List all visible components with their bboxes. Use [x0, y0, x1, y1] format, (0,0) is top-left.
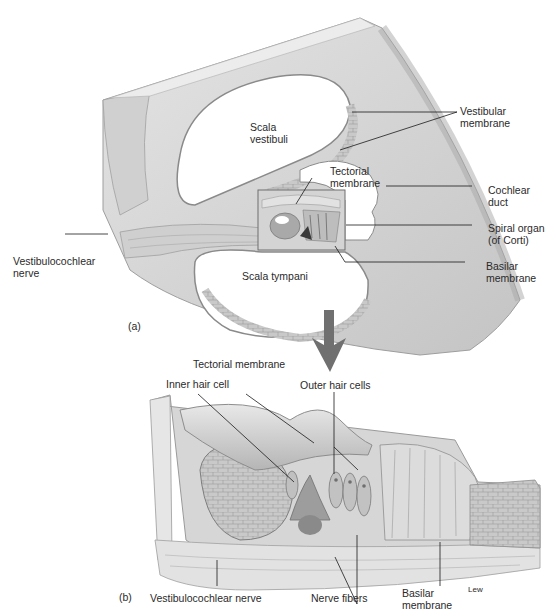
label-line: (of Corti): [488, 234, 545, 246]
panel-label-b: (b): [119, 591, 132, 603]
label-line: Cochlear: [488, 184, 530, 196]
artist-signature: Lew: [468, 584, 483, 596]
label-line: membrane: [486, 272, 536, 284]
label-scala-tympani: Scala tympani: [242, 270, 308, 282]
label-inner-hair-cell: Inner hair cell: [166, 378, 229, 390]
label-scala-vestibuli: Scala vestibuli: [250, 121, 288, 145]
label-line: nerve: [13, 267, 95, 279]
panel-label-a: (a): [128, 320, 141, 332]
label-vestibulocochlear-nerve-a: Vestibulocochlear nerve: [13, 255, 95, 279]
label-line: Vestibulocochlear: [13, 255, 95, 267]
label-outer-hair-cells: Outer hair cells: [300, 379, 371, 391]
label-line: membrane: [460, 117, 510, 129]
panel-b-organ-of-corti: [150, 395, 540, 590]
label-line: Scala: [250, 121, 288, 133]
label-spiral-organ: Spiral organ (of Corti): [488, 222, 545, 246]
label-line: duct: [488, 196, 530, 208]
label-line: Basilar: [486, 260, 536, 272]
label-line: Tectorial: [330, 165, 380, 177]
label-cochlear-duct: Cochlear duct: [488, 184, 530, 208]
label-basilar-membrane-b: Basilar membrane: [402, 587, 452, 611]
panel-a-cochlea-cross-section: [103, 18, 520, 372]
label-line: Basilar: [402, 587, 452, 599]
label-basilar-membrane-a: Basilar membrane: [486, 260, 536, 284]
cochlea-illustration: [0, 0, 556, 616]
label-line: membrane: [402, 599, 452, 611]
label-line: vestibuli: [250, 133, 288, 145]
label-line: membrane: [330, 177, 380, 189]
label-vestibular-membrane: Vestibular membrane: [460, 105, 510, 129]
label-tectorial-membrane-a: Tectorial membrane: [330, 165, 380, 189]
label-line: Vestibular: [460, 105, 510, 117]
label-vestibulocochlear-nerve-b: Vestibulocochlear nerve: [150, 592, 262, 604]
label-nerve-fibers: Nerve fibers: [311, 592, 368, 604]
label-line: Spiral organ: [488, 222, 545, 234]
label-tectorial-membrane-b: Tectorial membrane: [193, 358, 285, 370]
